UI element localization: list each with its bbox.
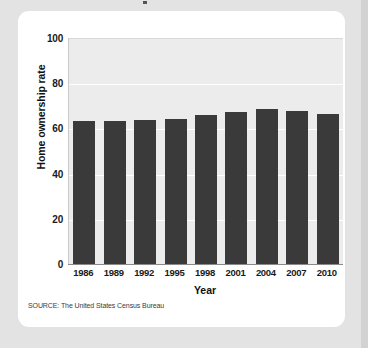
y-tick-60: 60 — [52, 123, 63, 134]
page-right-edge — [361, 0, 368, 348]
x-axis-tick-labels: 198619891992199519982001200420072010 — [68, 267, 342, 278]
y-tick-0: 0 — [58, 259, 63, 270]
x-tick-1992: 1992 — [129, 267, 159, 278]
page-artifact-speck — [143, 1, 147, 4]
bar-1998 — [195, 115, 217, 265]
bar-1986 — [73, 121, 95, 265]
y-tick-40: 40 — [52, 168, 63, 179]
bar-1992 — [134, 120, 156, 265]
x-tick-1995: 1995 — [160, 267, 190, 278]
y-tick-20: 20 — [52, 213, 63, 224]
bar-chart: Home ownership rate 100 80 60 40 20 0 19… — [18, 11, 345, 327]
plot-area — [68, 38, 343, 265]
bar-1995 — [165, 119, 187, 265]
bar-2007 — [286, 111, 308, 265]
chart-card: Home ownership rate 100 80 60 40 20 0 19… — [18, 11, 345, 327]
x-tick-2007: 2007 — [281, 267, 311, 278]
x-tick-2004: 2004 — [251, 267, 281, 278]
x-tick-1998: 1998 — [190, 267, 220, 278]
x-tick-1986: 1986 — [68, 267, 98, 278]
x-tick-2001: 2001 — [220, 267, 250, 278]
chart-page: Home ownership rate 100 80 60 40 20 0 19… — [0, 0, 368, 348]
y-tick-100: 100 — [47, 33, 63, 44]
bar-2004 — [256, 109, 278, 265]
y-axis-tick-labels: 100 80 60 40 20 0 — [18, 38, 63, 264]
bar-2001 — [225, 112, 247, 265]
y-tick-80: 80 — [52, 78, 63, 89]
x-tick-1989: 1989 — [99, 267, 129, 278]
bars-layer — [69, 39, 343, 265]
source-note: SOURCE: The United States Census Bureau — [28, 302, 164, 309]
x-axis-title: Year — [68, 284, 342, 296]
bar-1989 — [104, 121, 126, 265]
x-axis-line — [68, 264, 343, 265]
x-tick-2010: 2010 — [312, 267, 342, 278]
bar-2010 — [317, 114, 339, 265]
